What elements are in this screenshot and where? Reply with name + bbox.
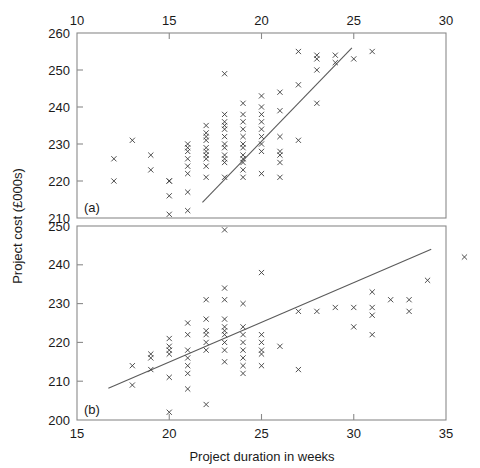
data-point-marker xyxy=(240,112,245,117)
data-point-marker xyxy=(296,49,301,54)
data-point-marker xyxy=(240,134,245,139)
data-point-marker xyxy=(240,355,245,360)
data-point-marker xyxy=(204,156,209,161)
x-tick-label: 35 xyxy=(439,426,453,441)
data-point-marker xyxy=(167,212,172,217)
data-point-marker xyxy=(314,67,319,72)
data-point-marker xyxy=(222,317,227,322)
data-point-marker xyxy=(167,193,172,198)
data-point-marker xyxy=(259,363,264,368)
data-point-marker xyxy=(240,127,245,132)
data-point-marker xyxy=(111,178,116,183)
data-point-marker xyxy=(296,138,301,143)
x-tick-label: 15 xyxy=(162,13,176,28)
data-point-marker xyxy=(240,301,245,306)
y-tick-label: 200 xyxy=(48,413,70,428)
data-point-marker xyxy=(240,119,245,124)
data-point-marker xyxy=(148,153,153,158)
data-point-marker xyxy=(370,49,375,54)
x-tick-label: 15 xyxy=(70,426,84,441)
data-point-marker xyxy=(240,348,245,353)
data-point-marker xyxy=(240,324,245,329)
data-point-marker xyxy=(388,297,393,302)
y-tick-label: 250 xyxy=(48,63,70,78)
x-tick-label: 10 xyxy=(70,13,84,28)
data-point-marker xyxy=(259,119,264,124)
data-point-marker xyxy=(222,340,227,345)
y-tick-label: 220 xyxy=(48,335,70,350)
data-point-marker xyxy=(259,104,264,109)
data-point-marker xyxy=(204,317,209,322)
data-point-marker xyxy=(277,153,282,158)
regression-line xyxy=(108,249,431,388)
data-point-marker xyxy=(130,138,135,143)
data-point-marker xyxy=(240,167,245,172)
data-point-marker xyxy=(240,371,245,376)
data-point-marker xyxy=(148,167,153,172)
x-tick-label: 30 xyxy=(439,13,453,28)
panel-tag-label: (a) xyxy=(84,200,100,215)
data-point-marker xyxy=(222,112,227,117)
scatter-figure: 1015202530210220230240250260(a) 15202530… xyxy=(0,0,480,468)
data-point-marker xyxy=(222,127,227,132)
data-point-marker xyxy=(222,297,227,302)
x-tick-label: 25 xyxy=(254,426,268,441)
data-point-marker xyxy=(240,101,245,106)
y-tick-label: 230 xyxy=(48,296,70,311)
data-point-marker xyxy=(240,332,245,337)
data-point-marker xyxy=(407,297,412,302)
data-point-marker xyxy=(185,320,190,325)
data-point-marker xyxy=(333,305,338,310)
data-point-marker xyxy=(296,82,301,87)
data-point-marker xyxy=(167,351,172,356)
y-tick-label: 220 xyxy=(48,174,70,189)
panel-tag-label: (b) xyxy=(84,402,100,417)
data-point-marker xyxy=(314,56,319,61)
data-point-marker xyxy=(240,340,245,345)
data-point-marker xyxy=(222,348,227,353)
x-tick-label: 20 xyxy=(254,13,268,28)
data-point-marker xyxy=(259,270,264,275)
data-point-marker xyxy=(259,127,264,132)
data-point-marker xyxy=(204,340,209,345)
data-point-marker xyxy=(222,71,227,76)
y-tick-label: 240 xyxy=(48,257,70,272)
data-point-marker xyxy=(370,305,375,310)
data-point-marker xyxy=(259,93,264,98)
data-point-marker xyxy=(240,363,245,368)
y-tick-label: 210 xyxy=(48,374,70,389)
data-point-marker xyxy=(222,359,227,364)
data-point-marker xyxy=(259,134,264,139)
data-point-marker xyxy=(259,149,264,154)
plot-frame xyxy=(77,33,446,218)
data-point-marker xyxy=(185,332,190,337)
data-point-marker xyxy=(277,108,282,113)
data-point-marker xyxy=(370,289,375,294)
data-point-marker xyxy=(314,101,319,106)
data-point-marker xyxy=(277,134,282,139)
data-point-marker xyxy=(204,123,209,128)
data-point-marker xyxy=(259,171,264,176)
y-tick-label: 250 xyxy=(48,219,70,234)
data-point-marker xyxy=(111,156,116,161)
data-point-marker xyxy=(277,160,282,165)
data-point-marker xyxy=(204,175,209,180)
data-point-marker xyxy=(185,171,190,176)
x-tick-label: 30 xyxy=(347,426,361,441)
data-point-marker xyxy=(240,175,245,180)
x-tick-label: 25 xyxy=(347,13,361,28)
data-point-marker xyxy=(204,402,209,407)
data-point-marker xyxy=(204,348,209,353)
data-point-marker xyxy=(277,175,282,180)
data-point-marker xyxy=(296,309,301,314)
data-point-marker xyxy=(351,324,356,329)
panel-b: 1520253035200210220230240250(b) xyxy=(48,219,467,442)
data-point-marker xyxy=(425,278,430,283)
data-point-marker xyxy=(204,138,209,143)
data-point-marker xyxy=(259,332,264,337)
data-point-marker xyxy=(351,305,356,310)
data-point-marker xyxy=(130,363,135,368)
data-point-marker xyxy=(167,178,172,183)
data-point-marker xyxy=(167,336,172,341)
data-point-marker xyxy=(222,145,227,150)
